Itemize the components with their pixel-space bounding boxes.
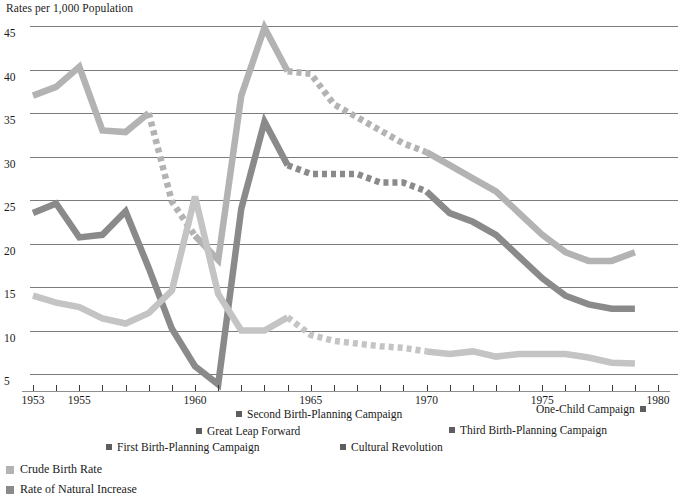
- x-axis-tick-1967: [357, 385, 358, 391]
- legend-swatch-icon: [6, 466, 14, 474]
- x-axis-tick-1968: [380, 385, 381, 391]
- x-axis-tick-1965: [311, 385, 312, 391]
- campaign-marker-icon: [236, 411, 242, 417]
- legend-item-label: Crude Birth Rate: [20, 462, 102, 477]
- series-line-crude-death-rate: [33, 197, 288, 331]
- x-axis-tick-1980: [658, 385, 659, 391]
- campaign-annotation-label: Cultural Revolution: [351, 441, 443, 453]
- campaign-annotation-label: One-Child Campaign: [536, 403, 635, 415]
- series-line-crude-birth-rate-dashed: [288, 71, 427, 152]
- campaign-annotation-first-birth-planning-campaign: First Birth-Planning Campaign: [106, 441, 259, 453]
- campaign-annotation-third-birth-planning-campaign: Third Birth-Planning Campaign: [449, 424, 607, 436]
- x-axis-tick-1971: [450, 385, 451, 391]
- x-axis-tick-1976: [565, 385, 566, 391]
- x-axis-tick-1975: [542, 385, 543, 391]
- campaign-annotation-one-child-campaign: One-Child Campaign: [536, 403, 646, 415]
- x-axis-label-1965: 1965: [299, 394, 322, 406]
- x-axis-label-1953: 1953: [22, 394, 45, 406]
- series-line-crude-birth-rate: [427, 152, 635, 261]
- x-axis-tick-1974: [519, 385, 520, 391]
- legend-item-crude-birth-rate[interactable]: Crude Birth Rate: [6, 462, 137, 477]
- campaign-annotation-great-leap-forward: Great Leap Forward: [196, 425, 300, 437]
- series-line-crude-death-rate: [427, 351, 635, 363]
- x-axis-tick-1956: [102, 385, 103, 391]
- x-axis-line: [22, 391, 670, 392]
- x-axis-tick-1973: [496, 385, 497, 391]
- x-axis-tick-1970: [427, 385, 428, 391]
- campaign-annotation-label: Third Birth-Planning Campaign: [460, 424, 607, 436]
- x-axis-label-1960: 1960: [184, 394, 207, 406]
- campaign-annotation-cultural-revolution: Cultural Revolution: [340, 441, 443, 453]
- x-axis-tick-1961: [218, 385, 219, 391]
- x-axis-tick-1958: [149, 385, 150, 391]
- x-axis-label-1970: 1970: [415, 394, 438, 406]
- series-legend: Crude Birth RateRate of Natural Increase: [6, 462, 137, 498]
- campaign-marker-icon: [340, 444, 346, 450]
- series-line-rate-of-natural-increase: [427, 191, 635, 308]
- legend-item-rate-of-natural-increase[interactable]: Rate of Natural Increase: [6, 482, 137, 497]
- x-axis-tick-1953: [33, 385, 34, 391]
- series-line-rate-of-natural-increase-dashed: [288, 165, 427, 191]
- x-axis-tick-1969: [403, 385, 404, 391]
- x-axis-label-1955: 1955: [68, 394, 91, 406]
- x-axis-tick-1957: [126, 385, 127, 391]
- campaign-marker-icon: [106, 444, 112, 450]
- campaign-marker-icon: [196, 428, 202, 434]
- x-axis-tick-1954: [56, 385, 57, 391]
- x-axis-tick-1963: [264, 385, 265, 391]
- x-axis-tick-1959: [172, 385, 173, 391]
- x-axis-tick-1960: [195, 385, 196, 391]
- x-axis-tick-1979: [635, 385, 636, 391]
- campaign-annotation-second-birth-planning-campaign: Second Birth-Planning Campaign: [236, 408, 402, 420]
- legend-swatch-icon: [6, 486, 14, 494]
- x-axis-tick-1977: [589, 385, 590, 391]
- x-axis-tick-1962: [241, 385, 242, 391]
- x-axis-tick-1964: [288, 385, 289, 391]
- series-line-crude-death-rate-dashed: [288, 317, 427, 351]
- x-axis-tick-1972: [473, 385, 474, 391]
- campaign-annotation-label: Great Leap Forward: [207, 425, 300, 437]
- campaign-annotation-label: Second Birth-Planning Campaign: [247, 408, 402, 420]
- x-axis-label-1980: 1980: [647, 394, 670, 406]
- campaign-marker-icon: [640, 406, 646, 412]
- campaign-annotation-label: First Birth-Planning Campaign: [117, 441, 259, 453]
- x-axis-tick-1955: [79, 385, 80, 391]
- legend-item-label: Rate of Natural Increase: [20, 482, 137, 497]
- campaign-marker-icon: [449, 427, 455, 433]
- x-axis-tick-1966: [334, 385, 335, 391]
- series-line-crude-birth-rate: [33, 67, 149, 132]
- x-axis-tick-1978: [612, 385, 613, 391]
